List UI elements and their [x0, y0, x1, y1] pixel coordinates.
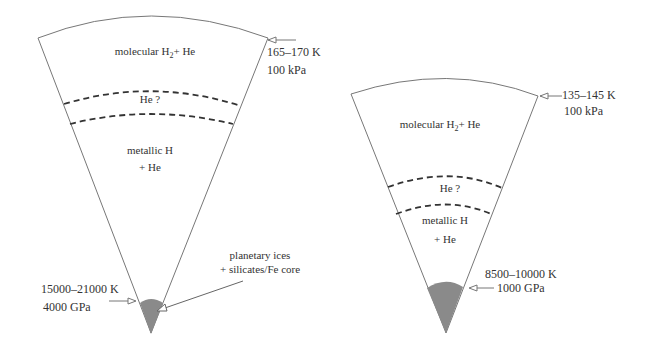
left-metallic-label-line2: + He	[110, 160, 190, 174]
left-surface-arrowhead	[268, 37, 276, 43]
right-core-boundary-arrowhead	[469, 285, 477, 291]
left-surface-pressure: 100 kPa	[267, 63, 306, 77]
label-text: + He	[458, 118, 480, 130]
left-core-pressure: 4000 GPa	[43, 300, 91, 314]
right-molecular-layer-label: molecular H2+ He	[385, 117, 495, 131]
label-text: + He	[173, 45, 195, 57]
label-text: molecular H	[400, 118, 455, 130]
interior-diagrams	[0, 0, 656, 358]
left-core-label-line1: planetary ices	[200, 248, 320, 262]
left-core	[140, 299, 163, 334]
left-core-pointer	[162, 281, 243, 309]
right-transition-label: He ?	[430, 181, 470, 195]
left-core-temp: 15000–21000 K	[41, 282, 119, 296]
left-molecular-layer-label: molecular H2+ He	[100, 44, 210, 58]
left-transition-lower-dashed	[70, 114, 233, 124]
right-core	[427, 282, 463, 333]
label-text: molecular H	[115, 45, 170, 57]
right-surface-arrowhead	[540, 93, 548, 99]
left-core-label-line2: + silicates/Fe core	[200, 262, 320, 276]
left-core-boundary-arrowhead	[128, 298, 136, 304]
left-metallic-label-line1: metallic H	[110, 143, 190, 157]
right-core-pressure: 1000 GPa	[497, 281, 545, 295]
right-surface-pressure: 100 kPa	[564, 104, 603, 118]
right-metallic-label-line2: + He	[405, 232, 485, 246]
right-metallic-label-line1: metallic H	[405, 213, 485, 227]
left-surface-temp: 165–170 K	[267, 45, 321, 59]
right-surface-temp: 135–145 K	[562, 88, 616, 102]
left-transition-label: He ?	[130, 92, 170, 106]
right-core-temp: 8500–10000 K	[485, 267, 557, 281]
